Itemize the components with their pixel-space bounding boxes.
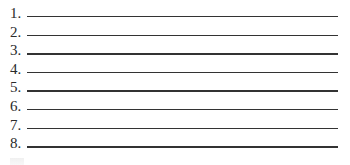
list-item: 2. — [0, 23, 350, 42]
answer-line-3[interactable] — [27, 53, 338, 54]
item-number: 2. — [10, 24, 21, 40]
item-number: 7. — [10, 117, 21, 133]
list-item: 1. — [0, 4, 350, 23]
item-number: 1. — [10, 5, 21, 21]
list-item: 7. — [0, 116, 350, 135]
list-item: 8. — [0, 134, 350, 153]
item-number: 4. — [10, 61, 21, 77]
item-number: 5. — [10, 79, 21, 95]
list-item: 4. — [0, 60, 350, 79]
list-item: 3. — [0, 41, 350, 60]
list-item: 5. — [0, 78, 350, 97]
answer-line-2[interactable] — [27, 35, 338, 36]
item-number: 6. — [10, 98, 21, 114]
answer-line-7[interactable] — [27, 128, 338, 129]
cropped-next-item — [10, 158, 24, 165]
answer-line-4[interactable] — [27, 72, 338, 73]
list-item: 6. — [0, 97, 350, 116]
answer-line-8[interactable] — [27, 146, 338, 147]
answer-line-1[interactable] — [27, 16, 338, 17]
numbered-blank-list: 1. 2. 3. 4. 5. 6. 7. 8. — [0, 4, 350, 153]
item-number: 8. — [10, 135, 21, 151]
item-number: 3. — [10, 42, 21, 58]
answer-line-6[interactable] — [27, 109, 338, 110]
answer-line-5[interactable] — [27, 90, 338, 91]
